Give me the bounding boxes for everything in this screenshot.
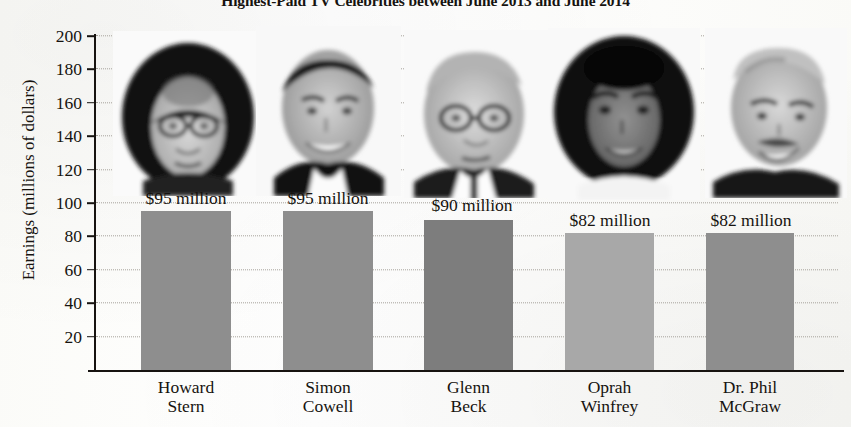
x-axis-label-line: Beck: [394, 397, 544, 416]
bar-howard-stern: [141, 211, 231, 370]
bar-value-label-2: $90 million: [402, 195, 542, 216]
x-axis-label-line: Simon: [253, 378, 403, 397]
howard-stern-photo: [113, 31, 263, 196]
bar-chart: Highest-Paid TV Celebrities between June…: [0, 0, 851, 427]
bar-oprah-winfrey: [565, 233, 654, 370]
chart-title: Highest-Paid TV Celebrities between June…: [0, 0, 851, 10]
x-axis-label-simon-cowell: SimonCowell: [253, 378, 403, 416]
bar-value-label-3: $82 million: [540, 210, 680, 231]
y-tick-label-160: 160: [22, 93, 82, 114]
bar-value-label-4: $82 million: [681, 210, 821, 231]
x-axis-label-line: Howard: [111, 378, 261, 397]
bar-dr-phil-mcgraw: [706, 233, 794, 370]
x-axis-label-dr-phil-mcgraw: Dr. PhilMcGraw: [675, 378, 825, 416]
bar-value-label-1: $95 million: [258, 188, 398, 209]
x-axis-label-glenn-beck: GlennBeck: [394, 378, 544, 416]
y-tick-label-60: 60: [22, 260, 82, 281]
x-axis-label-oprah-winfrey: OprahWinfrey: [535, 378, 685, 416]
y-tick-label-100: 100: [22, 193, 82, 214]
oprah-winfrey-photo: [548, 28, 700, 200]
y-tick-label-120: 120: [22, 160, 82, 181]
x-axis-label-line: Winfrey: [535, 397, 685, 416]
x-axis-label-howard-stern: HowardStern: [111, 378, 261, 416]
x-axis-label-line: Oprah: [535, 378, 685, 397]
x-axis-label-line: Cowell: [253, 397, 403, 416]
y-tick-label-20: 20: [22, 327, 82, 348]
x-axis-label-line: McGraw: [675, 397, 825, 416]
bar-value-label-0: $95 million: [116, 188, 256, 209]
x-axis-label-line: Dr. Phil: [675, 378, 825, 397]
y-tick-label-140: 140: [22, 126, 82, 147]
y-tick-label-200: 200: [22, 26, 82, 47]
y-tick-label-180: 180: [22, 59, 82, 80]
bar-simon-cowell: [283, 211, 373, 370]
y-tick-label-80: 80: [22, 226, 82, 247]
dr-phil-mcgraw-photo: [705, 28, 847, 198]
y-axis-line: [94, 34, 96, 372]
x-axis-label-line: Glenn: [394, 378, 544, 397]
simon-cowell-photo: [256, 26, 401, 196]
bar-glenn-beck: [424, 220, 513, 370]
y-tick-label-40: 40: [22, 293, 82, 314]
x-axis-label-line: Stern: [111, 397, 261, 416]
glenn-beck-photo: [404, 30, 552, 198]
x-axis-line: [88, 370, 844, 372]
